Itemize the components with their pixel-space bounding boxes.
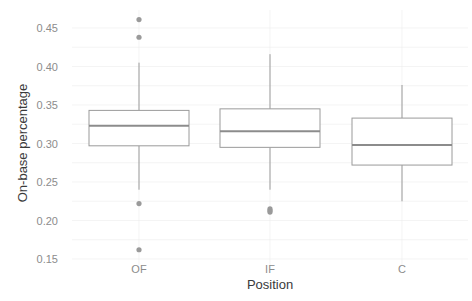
boxes: [89, 17, 452, 252]
outlier-point: [267, 209, 272, 214]
y-axis-label: On-base percentage: [15, 84, 30, 203]
x-axis-ticks: OFIFC: [131, 263, 406, 275]
y-tick-label: 0.30: [37, 138, 58, 150]
y-tick-label: 0.20: [37, 215, 58, 227]
y-tick-label: 0.45: [37, 22, 58, 34]
outlier-point: [136, 17, 141, 22]
x-axis-label: Position: [247, 277, 293, 292]
iqr-box: [220, 109, 320, 148]
x-tick-label: IF: [265, 263, 275, 275]
y-tick-label: 0.40: [37, 61, 58, 73]
x-tick-label: OF: [131, 263, 147, 275]
box-c: [352, 85, 452, 201]
x-tick-label: C: [398, 263, 406, 275]
iqr-box: [89, 110, 189, 145]
y-tick-label: 0.25: [37, 176, 58, 188]
outlier-point: [136, 201, 141, 206]
boxplot-chart: 0.150.200.250.300.350.400.45 OFIFC Posit…: [0, 0, 472, 301]
iqr-box: [352, 118, 452, 165]
y-axis-ticks: 0.150.200.250.300.350.400.45: [37, 22, 58, 265]
y-tick-label: 0.35: [37, 99, 58, 111]
y-tick-label: 0.15: [37, 253, 58, 265]
outlier-point: [136, 35, 141, 40]
outlier-point: [136, 247, 141, 252]
